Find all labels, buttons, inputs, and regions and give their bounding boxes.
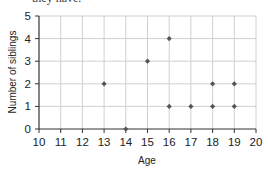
- y-tick-label: 2: [25, 78, 31, 90]
- x-tick-label: 17: [185, 136, 198, 148]
- x-tick-label: 14: [119, 136, 132, 148]
- x-tick-label: 11: [55, 136, 67, 148]
- x-tick-label: 15: [141, 136, 154, 148]
- x-tick-label: 10: [33, 136, 46, 148]
- y-tick-label: 5: [25, 10, 31, 22]
- x-tick-label: 20: [250, 136, 263, 148]
- y-tick-label: 1: [25, 100, 31, 112]
- x-axis-label: Age: [138, 155, 156, 166]
- data-point-marker: [210, 81, 215, 86]
- y-tick-label: 3: [25, 55, 31, 67]
- data-point-marker: [232, 104, 237, 109]
- x-tick-label: 18: [206, 136, 219, 148]
- y-axis-label: Number of siblings: [7, 31, 18, 114]
- data-point-marker: [123, 126, 128, 131]
- y-tick-label: 0: [25, 123, 31, 135]
- data-point-marker: [102, 81, 107, 86]
- data-point-marker: [210, 104, 215, 109]
- data-point-marker: [232, 81, 237, 86]
- data-point-marker: [167, 104, 172, 109]
- x-tick-label: 13: [98, 136, 111, 148]
- grid-lines: [39, 16, 256, 129]
- y-axis-ticks: 012345: [25, 10, 39, 135]
- data-point-marker: [145, 59, 150, 64]
- data-point-marker: [188, 104, 193, 109]
- x-tick-label: 12: [76, 136, 89, 148]
- data-point-marker: [167, 36, 172, 41]
- x-tick-label: 16: [163, 136, 176, 148]
- x-axis-ticks: 1011121314151617181920: [33, 129, 263, 148]
- scatter-chart: 1011121314151617181920 012345 Age Number…: [0, 0, 268, 170]
- x-tick-label: 19: [228, 136, 241, 148]
- y-tick-label: 4: [25, 33, 32, 45]
